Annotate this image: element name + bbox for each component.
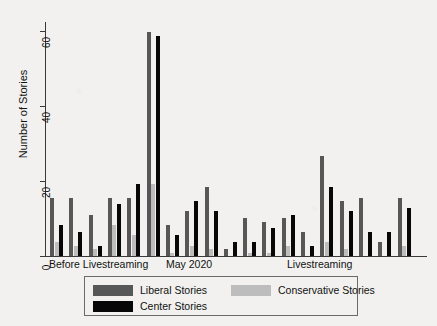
bar-liberal-16 (340, 201, 344, 256)
bar-liberal-5 (127, 198, 131, 257)
bar-center-14 (310, 246, 314, 256)
bar-liberal-12 (262, 222, 266, 256)
bar-liberal-9 (205, 187, 209, 256)
bar-center-15 (329, 187, 333, 256)
bar-liberal-13 (282, 218, 286, 256)
bar-conservative-7 (170, 253, 174, 256)
bar-center-3 (98, 246, 102, 256)
bar-conservative-2 (74, 246, 78, 256)
legend-item-center: Center Stories (93, 299, 207, 313)
bar-conservative-19 (402, 246, 406, 256)
bar-conservative-13 (286, 246, 290, 256)
y-tick-label-0-wrap: 0 (22, 250, 46, 262)
bar-center-4 (117, 204, 121, 256)
bar-center-2 (78, 232, 82, 256)
legend-label-conservative: Conservative Stories (278, 284, 375, 296)
bar-center-6 (156, 36, 160, 256)
bar-center-11 (252, 242, 256, 256)
bar-liberal-2 (69, 198, 73, 257)
legend-swatch-center-icon (93, 301, 133, 312)
bar-conservative-3 (93, 249, 97, 256)
bar-liberal-11 (243, 218, 247, 256)
bar-center-9 (214, 211, 218, 256)
x-axis-line (45, 256, 427, 257)
bar-liberal-19 (398, 198, 402, 257)
legend-swatch-conservative-icon (231, 285, 271, 296)
bar-center-7 (175, 235, 179, 256)
bar-center-12 (271, 228, 275, 256)
plot-area (46, 22, 427, 256)
bar-conservative-9 (209, 249, 213, 256)
y-axis-title: Number of Stories (17, 49, 29, 179)
bar-conservative-12 (267, 253, 271, 256)
bar-liberal-7 (166, 225, 170, 256)
legend-item-liberal: Liberal Stories (93, 283, 207, 297)
bar-conservative-5 (132, 235, 136, 256)
legend-item-conservative: Conservative Stories (231, 283, 375, 297)
bar-conservative-8 (190, 246, 194, 256)
bar-conservative-1 (55, 242, 59, 256)
y-tick-label-60-wrap: 60 (22, 25, 46, 37)
bar-conservative-6 (151, 184, 155, 256)
bar-liberal-18 (378, 242, 382, 256)
x-label-may-2020: May 2020 (166, 258, 212, 270)
bar-chart-figure: Number of Stories 0 20 40 60 Before Live… (0, 0, 437, 326)
bar-liberal-10 (224, 249, 228, 256)
bar-liberal-6 (147, 32, 151, 256)
y-tick-label-20-wrap: 20 (22, 175, 46, 187)
bar-liberal-4 (108, 198, 112, 257)
bar-liberal-14 (301, 232, 305, 256)
legend: Liberal Stories Conservative Stories Cen… (84, 276, 358, 316)
bar-conservative-4 (112, 225, 116, 256)
legend-swatch-liberal-icon (93, 285, 133, 296)
bar-liberal-1 (50, 198, 54, 257)
legend-label-center: Center Stories (140, 300, 207, 312)
x-label-before-livestreaming: Before Livestreaming (49, 258, 148, 270)
bar-center-8 (194, 201, 198, 256)
bar-center-17 (368, 232, 372, 256)
y-tick-label-40-wrap: 40 (22, 100, 46, 112)
bar-center-19 (407, 208, 411, 256)
bar-center-10 (233, 242, 237, 256)
bar-center-1 (59, 225, 63, 256)
bar-liberal-15 (320, 156, 324, 256)
bar-conservative-11 (248, 253, 252, 256)
bar-center-5 (136, 184, 140, 256)
bar-liberal-3 (89, 215, 93, 256)
bar-liberal-8 (185, 211, 189, 256)
bar-liberal-17 (359, 198, 363, 257)
bar-conservative-15 (325, 242, 329, 256)
bar-center-18 (387, 232, 391, 256)
bar-conservative-16 (344, 249, 348, 256)
bar-center-13 (291, 215, 295, 256)
x-label-livestreaming: Livestreaming (287, 258, 352, 270)
legend-label-liberal: Liberal Stories (140, 284, 207, 296)
bar-center-16 (349, 211, 353, 256)
